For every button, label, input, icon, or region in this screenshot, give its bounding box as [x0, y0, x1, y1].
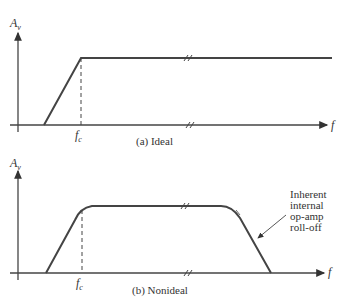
y-axis-label: Av	[10, 17, 21, 32]
caption-ideal: (a) Ideal	[136, 136, 173, 147]
fc-label: fc	[75, 129, 82, 144]
rolloff-annotation: Inherent internal op-amp roll-off	[290, 189, 327, 233]
annotation-arrow	[258, 215, 286, 238]
break-mark-icon	[184, 55, 194, 128]
response-curve	[44, 58, 332, 125]
caption-nonideal: (b) Nonideal	[132, 285, 188, 296]
panel-nonideal	[10, 171, 324, 280]
x-axis-label: f	[331, 119, 334, 131]
diagram-canvas	[0, 0, 343, 302]
panel-ideal	[10, 33, 332, 132]
x-axis-label: f	[328, 266, 331, 278]
break-mark-icon	[181, 203, 192, 276]
response-curve	[46, 206, 271, 273]
fc-label: fc	[76, 277, 83, 292]
y-axis-label: Av	[10, 157, 21, 172]
